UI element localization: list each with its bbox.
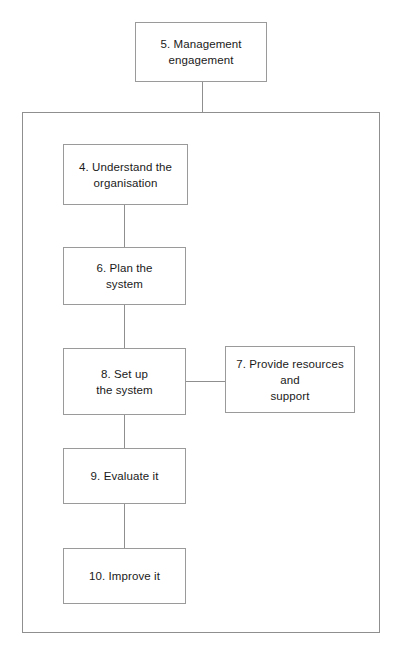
connector-node4-to-node6 <box>124 205 125 247</box>
node-improve-it[interactable]: 10. Improve it <box>63 548 186 604</box>
node-understand-the-organisation[interactable]: 4. Understand the organisation <box>63 144 188 205</box>
node-set-up-the-system[interactable]: 8. Set up the system <box>63 348 186 415</box>
node-management-engagement[interactable]: 5. Management engagement <box>135 22 267 82</box>
diagram-canvas: 5. Management engagement 4. Understand t… <box>0 0 400 655</box>
node-provide-resources-and-support[interactable]: 7. Provide resources and support <box>225 346 355 413</box>
connector-node8-to-node7 <box>186 381 225 382</box>
connector-node8-to-node9 <box>124 415 125 448</box>
node-plan-the-system[interactable]: 6. Plan the system <box>63 247 186 305</box>
connector-node6-to-node8 <box>124 305 125 348</box>
connector-node5-to-container <box>202 82 203 112</box>
connector-node9-to-node10 <box>124 504 125 548</box>
node-evaluate-it[interactable]: 9. Evaluate it <box>63 448 186 504</box>
